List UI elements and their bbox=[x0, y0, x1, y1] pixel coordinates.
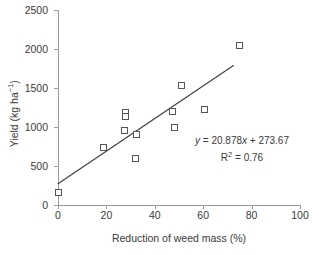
scatter-chart: 05001000150020002500 020406080100 Yield … bbox=[0, 0, 319, 255]
data-point bbox=[55, 189, 62, 196]
y-axis-title-tail: ) bbox=[8, 80, 20, 84]
y-axis-title-text: Yield (kg ha bbox=[8, 92, 20, 147]
y-axis-title-exponent: −1 bbox=[6, 84, 15, 93]
equation-suffix: + 273.67 bbox=[247, 135, 289, 146]
data-point bbox=[169, 108, 176, 115]
plot-area: 05001000150020002500 020406080100 bbox=[58, 10, 300, 205]
y-tick-label: 0 bbox=[42, 199, 48, 211]
data-point bbox=[132, 155, 139, 162]
y-tick-label: 500 bbox=[30, 160, 48, 172]
regression-equation: y = 20.878x + 273.67 bbox=[176, 134, 308, 148]
r-squared-value: = 0.76 bbox=[232, 152, 263, 163]
regression-annotation: y = 20.878x + 273.67 R2 = 0.76 bbox=[176, 134, 308, 165]
y-axis-title: Yield (kg ha−1) bbox=[6, 49, 20, 179]
data-point bbox=[133, 131, 140, 138]
data-point bbox=[121, 127, 128, 134]
x-tick-label: 100 bbox=[291, 209, 309, 221]
x-tick-label: 80 bbox=[246, 209, 258, 221]
data-point bbox=[100, 144, 107, 151]
x-axis-line bbox=[58, 205, 300, 206]
data-point bbox=[236, 42, 243, 49]
r-squared-line: R2 = 0.76 bbox=[176, 148, 308, 165]
data-point bbox=[201, 106, 208, 113]
y-tick-label: 2500 bbox=[25, 4, 48, 16]
x-axis-title: Reduction of weed mass (%) bbox=[58, 232, 300, 244]
data-point bbox=[178, 82, 185, 89]
x-tick-label: 60 bbox=[197, 209, 209, 221]
trendline bbox=[58, 10, 300, 205]
y-tick-label: 1500 bbox=[25, 82, 48, 94]
data-point bbox=[122, 113, 129, 120]
data-point bbox=[171, 124, 178, 131]
y-tick-label: 1000 bbox=[25, 121, 48, 133]
y-tick-label: 2000 bbox=[25, 43, 48, 55]
x-tick-label: 20 bbox=[101, 209, 113, 221]
x-tick-label: 0 bbox=[55, 209, 61, 221]
equation-body: = 20.878 bbox=[200, 135, 242, 146]
x-tick-label: 40 bbox=[149, 209, 161, 221]
r-squared-label: R bbox=[221, 152, 228, 163]
